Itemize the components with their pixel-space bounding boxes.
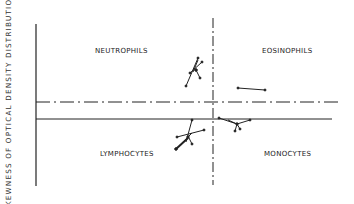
quadrant-label-eosinophils: EOSINOPHILS xyxy=(262,47,312,55)
diagram-canvas xyxy=(0,0,354,204)
eosinophil-trajectory xyxy=(237,87,266,91)
lymphocyte-trajectories xyxy=(175,119,205,150)
skewness-quadrant-diagram: SKEWNESS OF OPTICAL DENSITY DISTRIBUTION… xyxy=(0,0,354,204)
neutrophil-trajectories xyxy=(185,57,203,87)
quadrant-label-monocytes: MONOCYTES xyxy=(264,150,311,158)
quadrant-label-neutrophils: NEUTROPHILS xyxy=(95,47,148,55)
quadrant-label-lymphocytes: LYMPHOCYTES xyxy=(100,150,154,158)
y-axis-label: SKEWNESS OF OPTICAL DENSITY DISTRIBUTION xyxy=(4,0,13,204)
